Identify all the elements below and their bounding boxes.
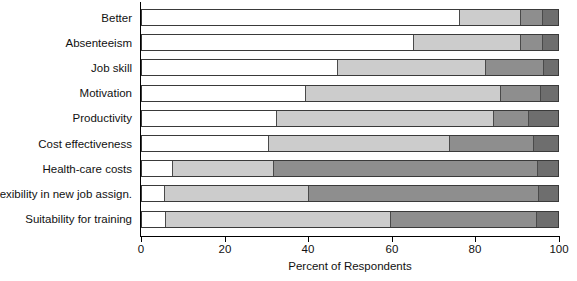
category-label: Flexibility in new job assign. bbox=[0, 187, 132, 201]
bar-segment-3 bbox=[494, 111, 529, 126]
x-tick bbox=[225, 237, 226, 242]
bar-segment-3 bbox=[309, 186, 539, 201]
bar-segment-4 bbox=[537, 212, 558, 227]
bar-segment-2 bbox=[173, 161, 274, 176]
bar-segment-1 bbox=[142, 186, 165, 201]
bar-segment-4 bbox=[538, 161, 558, 176]
bar-segment-2 bbox=[165, 186, 309, 201]
bar-segment-2 bbox=[414, 35, 520, 50]
stacked-bar-chart: BetterAbsenteeismJob skillMotivationProd… bbox=[0, 0, 577, 281]
x-tick bbox=[559, 237, 560, 242]
bar-segment-1 bbox=[142, 111, 277, 126]
bar-segment-1 bbox=[142, 10, 460, 25]
bar-segment-4 bbox=[539, 186, 558, 201]
bar-segment-4 bbox=[529, 111, 558, 126]
bar-segment-1 bbox=[142, 35, 414, 50]
bar-row bbox=[141, 160, 559, 177]
bar-segment-1 bbox=[142, 212, 166, 227]
bar-segment-4 bbox=[543, 10, 558, 25]
bar-segment-3 bbox=[486, 60, 544, 75]
x-tick-label: 100 bbox=[539, 243, 577, 256]
category-label: Absenteeism bbox=[66, 36, 132, 50]
bar-segment-3 bbox=[274, 161, 538, 176]
bar-row bbox=[141, 85, 559, 102]
x-tick bbox=[392, 237, 393, 242]
bar-segment-3 bbox=[501, 86, 541, 101]
bar-segment-2 bbox=[306, 86, 501, 101]
bar-segment-3 bbox=[391, 212, 537, 227]
x-tick-label: 40 bbox=[288, 243, 328, 256]
x-axis-line bbox=[140, 236, 560, 237]
x-tick bbox=[475, 237, 476, 242]
bar-row bbox=[141, 9, 559, 26]
bar-segment-1 bbox=[142, 136, 269, 151]
bar-segment-3 bbox=[521, 10, 544, 25]
bar-segment-4 bbox=[541, 86, 558, 101]
bar-segment-2 bbox=[460, 10, 520, 25]
category-label: Job skill bbox=[91, 61, 132, 75]
bar-row bbox=[141, 185, 559, 202]
category-label: Motivation bbox=[80, 86, 132, 100]
x-tick-label: 20 bbox=[205, 243, 245, 256]
x-tick bbox=[141, 237, 142, 242]
category-label: Productivity bbox=[73, 111, 132, 125]
bar-row bbox=[141, 135, 559, 152]
bar-segment-4 bbox=[544, 60, 558, 75]
bar-segment-3 bbox=[521, 35, 544, 50]
bar-segment-1 bbox=[142, 161, 173, 176]
category-label: Cost effectiveness bbox=[38, 137, 132, 151]
bar-row bbox=[141, 59, 559, 76]
category-label: Health-care costs bbox=[43, 162, 132, 176]
x-tick-label: 0 bbox=[121, 243, 161, 256]
bar-segment-1 bbox=[142, 60, 338, 75]
bar-segment-1 bbox=[142, 86, 306, 101]
x-axis-title: Percent of Respondents bbox=[141, 260, 559, 272]
bar-row bbox=[141, 34, 559, 51]
bar-row bbox=[141, 110, 559, 127]
bar-row bbox=[141, 211, 559, 228]
x-tick-label: 80 bbox=[455, 243, 495, 256]
bar-segment-2 bbox=[338, 60, 487, 75]
bar-segment-2 bbox=[269, 136, 450, 151]
bar-segment-2 bbox=[166, 212, 391, 227]
category-label: Better bbox=[101, 11, 132, 25]
bar-segment-2 bbox=[277, 111, 494, 126]
category-label: Suitability for training bbox=[25, 212, 132, 226]
plot-area bbox=[141, 4, 559, 232]
x-tick bbox=[308, 237, 309, 242]
bar-segment-4 bbox=[534, 136, 558, 151]
x-tick-label: 60 bbox=[372, 243, 412, 256]
bar-segment-3 bbox=[450, 136, 534, 151]
category-axis-labels: BetterAbsenteeismJob skillMotivationProd… bbox=[0, 0, 137, 232]
bar-segment-4 bbox=[543, 35, 558, 50]
